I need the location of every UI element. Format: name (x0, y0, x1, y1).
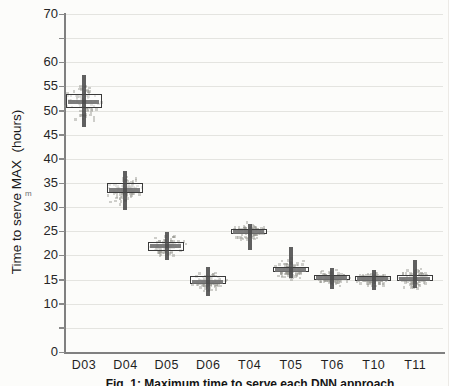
cloud-point (359, 282, 362, 285)
y-tick-10 (59, 303, 65, 305)
figure-caption-text: Fig. 1: Maximum time to serve each DNN a… (106, 377, 395, 386)
x-axis-line (64, 352, 445, 354)
cloud-point (119, 197, 122, 200)
cloud-point (89, 114, 92, 117)
cloud-point (382, 284, 385, 287)
y-tick-40 (59, 158, 65, 160)
cloud-point (115, 197, 118, 200)
gridline-20 (66, 255, 443, 256)
cloud-point (295, 273, 298, 276)
cloud-point (130, 194, 133, 197)
cloud-point (277, 275, 280, 278)
gridline-45 (66, 135, 443, 136)
cloud-point (93, 119, 96, 122)
y-tick-label-0: 0 (28, 344, 58, 360)
y-tick-label-30: 30 (28, 199, 58, 215)
gridline-40 (66, 159, 443, 160)
cloud-point (154, 237, 157, 240)
whisker-T10 (372, 270, 376, 290)
y-tick-label-15: 15 (28, 272, 58, 288)
y-tick-label-25: 25 (28, 223, 58, 239)
whisker-D03 (82, 75, 86, 127)
cloud-point (367, 284, 370, 287)
cloud-point (335, 282, 338, 285)
cloud-point (280, 272, 283, 275)
whisker-T05 (289, 247, 293, 277)
cloud-point (88, 90, 91, 93)
cloud-point (119, 203, 122, 206)
cloud-point (138, 193, 141, 196)
cloud-point (191, 284, 194, 287)
y-tick-label-60: 60 (28, 54, 58, 70)
whisker-T04 (248, 224, 252, 250)
cloud-point (95, 108, 98, 111)
x-tick-label-T11: T11 (393, 358, 437, 372)
figure-caption: Fig. 1: Maximum time to serve each DNN a… (60, 377, 440, 386)
cloud-point (74, 118, 77, 121)
cloud-point (256, 237, 259, 240)
whisker-D05 (165, 232, 169, 260)
x-tick-label-T06: T06 (310, 358, 354, 372)
cloud-point (320, 271, 323, 274)
y-tick-label-50: 50 (28, 103, 58, 119)
cloud-point (299, 272, 302, 275)
x-tick-label-D06: D06 (186, 358, 230, 372)
cloud-point (284, 273, 287, 276)
cloud-point (215, 288, 218, 291)
cloud-point (299, 277, 302, 280)
x-tick-label-T04: T04 (228, 358, 272, 372)
whisker-D06 (206, 267, 210, 296)
gridline-5 (66, 328, 443, 329)
cloud-point (286, 263, 289, 266)
y-tick-label-20: 20 (28, 247, 58, 263)
cloud-point (339, 280, 342, 283)
cloud-point (172, 236, 175, 239)
x-tick-label-D03: D03 (62, 358, 106, 372)
cloud-point (109, 201, 112, 204)
y-tick-15 (59, 279, 65, 281)
cloud-point (158, 251, 161, 254)
y-tick-25 (59, 231, 65, 233)
gridline-70 (66, 14, 443, 15)
y-tick-0 (59, 352, 65, 354)
cloud-point (346, 280, 349, 283)
y-tick-20 (59, 255, 65, 257)
cloud-point (302, 260, 305, 263)
cloud-point (335, 269, 338, 272)
y-tick-60 (59, 62, 65, 64)
gridline-55 (66, 86, 443, 87)
cloud-point (235, 236, 238, 239)
gridline-60 (66, 62, 443, 63)
cloud-point (295, 264, 298, 267)
cloud-point (172, 254, 175, 257)
cloud-point (301, 263, 304, 266)
y-tick-label-10: 10 (28, 296, 58, 312)
y-tick-70 (59, 14, 65, 16)
plot-area (66, 14, 443, 352)
cloud-point (198, 272, 201, 275)
cloud-point (424, 282, 427, 285)
y-tick-35 (59, 183, 65, 185)
x-tick-label-T10: T10 (352, 358, 396, 372)
cloud-point (420, 268, 423, 271)
y-tick-label-35: 35 (28, 175, 58, 191)
x-tick-label-D04: D04 (103, 358, 147, 372)
whisker-T06 (330, 268, 334, 289)
cloud-point (382, 282, 385, 285)
y-tick-30 (59, 207, 65, 209)
cloud-point (253, 238, 256, 241)
y-tick-5 (59, 327, 65, 329)
y-tick-label-45: 45 (28, 127, 58, 143)
cloud-point (278, 263, 281, 266)
x-tick-label-D05: D05 (145, 358, 189, 372)
cloud-point (337, 272, 340, 275)
y-tick-label-40: 40 (28, 151, 58, 167)
cloud-point (185, 243, 188, 246)
cloud-point (73, 90, 76, 93)
cloud-point (120, 200, 123, 203)
cloud-point (403, 286, 406, 289)
gridline-65 (66, 38, 443, 39)
cloud-point (86, 110, 89, 113)
cloud-point (135, 177, 138, 180)
y-tick-45 (59, 134, 65, 136)
